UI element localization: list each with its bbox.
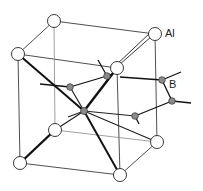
- b-atom: [67, 84, 74, 91]
- label-b: B: [169, 78, 176, 90]
- crystal-structure-diagram: Al B: [0, 0, 203, 191]
- cell-edges: [18, 21, 157, 175]
- b-atoms: [67, 73, 176, 120]
- al-atom: [14, 157, 27, 170]
- al-atom: [149, 28, 162, 41]
- al-atom: [151, 136, 164, 149]
- al-atom: [48, 15, 61, 28]
- al-atom: [111, 62, 124, 75]
- al-atom: [114, 169, 127, 182]
- center-bonds: [55, 87, 157, 142]
- al-atom: [49, 124, 62, 137]
- b-atom: [104, 73, 111, 80]
- b-atom: [132, 113, 139, 120]
- b-atom: [169, 98, 176, 105]
- label-al: Al: [165, 27, 175, 39]
- b-atom: [81, 108, 88, 115]
- b-atom: [159, 77, 166, 84]
- al-atom: [12, 48, 25, 61]
- double-edge: [115, 32, 152, 66]
